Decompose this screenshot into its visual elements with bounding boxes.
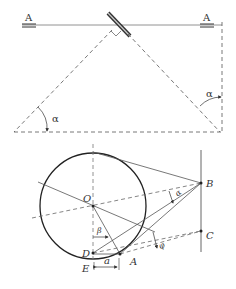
bottom-figure: a β α φ O B C D E A (32, 144, 214, 274)
section-label-right: A (202, 12, 211, 23)
top-figure: A A α α (14, 12, 222, 132)
label-a: A (129, 256, 137, 267)
diagram-canvas: A A α α (0, 0, 236, 289)
point-a (119, 253, 122, 256)
angle-label-left: α (52, 113, 59, 124)
point-c (200, 230, 203, 233)
line-db (93, 183, 201, 253)
angle-label-beta: β (96, 226, 102, 235)
point-o (92, 205, 95, 208)
label-d: D (81, 248, 90, 259)
label-b: B (205, 178, 213, 189)
angle-arc-left (38, 107, 47, 131)
point-d (92, 252, 95, 255)
angle-label-right: α (206, 88, 213, 99)
right-angle-mark (111, 31, 121, 36)
angle-arc-alpha (169, 191, 173, 203)
ray-triangle (14, 22, 222, 132)
label-o: O (83, 193, 91, 204)
angle-label-alpha: α (173, 188, 183, 199)
label-e: E (81, 263, 90, 274)
dimension-label-a: a (104, 255, 110, 266)
tangent-line-top (93, 152, 201, 183)
point-b (200, 182, 203, 185)
section-label-left: A (24, 12, 33, 23)
angle-label-phi: φ (157, 240, 167, 251)
label-c: C (206, 230, 214, 241)
